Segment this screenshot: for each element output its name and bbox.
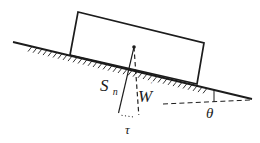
horizontal-reference-line xyxy=(163,100,250,104)
label-weight-prime-mark: ′ xyxy=(150,80,153,90)
label-angle: θ xyxy=(206,105,214,121)
center-of-mass-dot xyxy=(132,45,136,49)
label-surface-reaction: S n xyxy=(100,76,118,97)
vector-shear xyxy=(122,115,136,117)
label-surface-reaction-subscript: n xyxy=(113,86,118,97)
label-surface-reaction-symbol: S xyxy=(100,76,109,95)
vector-surface-reaction xyxy=(119,47,135,113)
figure-canvas: S n W ′ τ θ xyxy=(0,0,260,143)
stroke-layer xyxy=(13,12,252,117)
incline-free-body-diagram: S n W ′ τ θ xyxy=(0,0,260,143)
block xyxy=(70,12,204,84)
incline-surface-line xyxy=(13,42,252,99)
label-shear: τ xyxy=(125,122,131,137)
